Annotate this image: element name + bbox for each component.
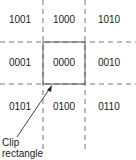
region-code-1001: 1001: [0, 14, 40, 25]
pointer-arrow: [17, 88, 50, 137]
label-line-2: rectangle: [2, 148, 43, 159]
region-code-0100: 0100: [44, 101, 84, 112]
region-code-1010: 1010: [89, 14, 129, 25]
region-code-0101: 0101: [0, 101, 40, 112]
label-line-1: Clip: [2, 137, 43, 148]
region-code-0000: 0000: [44, 57, 84, 68]
region-code-1000: 1000: [44, 14, 84, 25]
region-code-0110: 0110: [89, 101, 129, 112]
clip-rectangle-label: Clip rectangle: [2, 137, 43, 159]
region-code-0001: 0001: [0, 57, 40, 68]
region-code-0010: 0010: [89, 57, 129, 68]
